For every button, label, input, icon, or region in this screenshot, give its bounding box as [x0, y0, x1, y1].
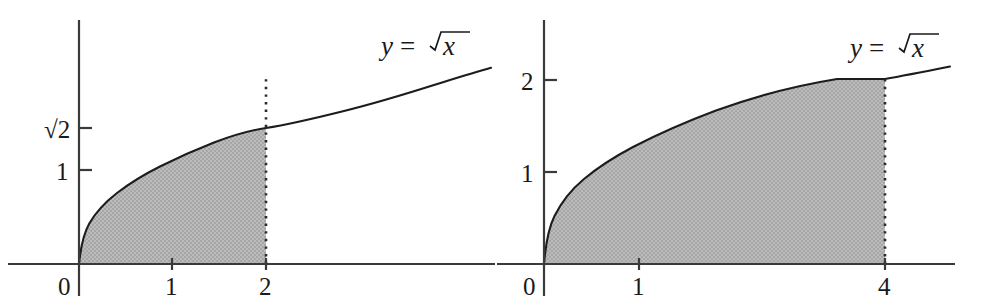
equation-annotation: y = x [847, 33, 939, 63]
x-tick-label-4: 4 [878, 273, 891, 300]
y-tick-label-1: 1 [521, 160, 534, 187]
equation-equals-symbol: = [400, 31, 415, 61]
x-tick-label-2: 2 [259, 273, 272, 300]
y-tick-label-sqrt2: √2 [44, 116, 70, 143]
equation-y-symbol: y [847, 33, 862, 63]
origin-label: 0 [58, 273, 71, 300]
equation-annotation: y = x [378, 31, 470, 61]
y-tick-label-sqrt2-text: √2 [44, 116, 70, 143]
plot-svg-right: 2 1 0 1 4 y = x [497, 0, 993, 306]
x-tick-label-1: 1 [632, 273, 645, 300]
plot-panel-right: 2 1 0 1 4 y = x [497, 0, 993, 306]
origin-label: 0 [523, 273, 536, 300]
shaded-area-region [79, 128, 266, 264]
y-tick-label-1: 1 [56, 158, 69, 185]
equation-y-symbol: y [378, 31, 393, 61]
plot-svg-left: √2 1 0 1 2 y = x [0, 0, 497, 306]
equation-radicand-symbol: x [442, 31, 455, 61]
plot-panel-left: √2 1 0 1 2 y = x [0, 0, 497, 306]
y-tick-label-2: 2 [521, 68, 534, 95]
math-figure: √2 1 0 1 2 y = x [0, 0, 993, 306]
equation-equals-symbol: = [869, 33, 884, 63]
x-tick-label-1: 1 [165, 273, 178, 300]
equation-radicand-symbol: x [911, 33, 924, 63]
